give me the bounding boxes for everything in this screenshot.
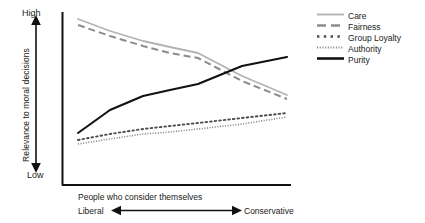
series-group-loyalty xyxy=(78,113,287,140)
y-axis-low-label: Low xyxy=(27,170,44,180)
legend-label-care: Care xyxy=(348,11,366,21)
legend-label-group-loyalty: Group Loyalty xyxy=(348,33,401,43)
y-axis-title: Relevance to moral decisions xyxy=(21,35,31,175)
x-axis-left-label: Liberal xyxy=(78,206,104,216)
series-purity xyxy=(78,57,287,133)
series-care xyxy=(78,19,287,95)
x-axis-right-label: Conservative xyxy=(244,206,294,216)
series-authority xyxy=(78,117,287,144)
x-direction-arrow xyxy=(111,206,242,216)
legend-label-authority: Authority xyxy=(348,44,382,54)
y-direction-arrow xyxy=(31,15,41,173)
y-axis-high-label: High xyxy=(22,8,41,18)
x-axis-caption: People who consider themselves xyxy=(78,192,202,202)
legend-label-purity: Purity xyxy=(348,55,370,65)
legend-label-fairness: Fairness xyxy=(348,22,381,32)
